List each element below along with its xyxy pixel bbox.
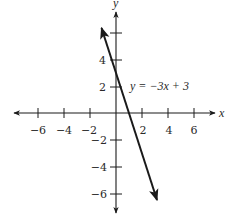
- x-tick-label: −6: [30, 124, 46, 137]
- x-axis-label: x: [218, 106, 225, 120]
- x-tick-label: 6: [191, 124, 198, 137]
- x-tick-label: 2: [140, 124, 147, 137]
- x-tick-label: 4: [166, 124, 173, 137]
- y-tick-label: −6: [91, 188, 107, 201]
- equation-label: y = −3x + 3: [129, 79, 189, 93]
- y-tick-label: 2: [99, 81, 106, 94]
- function-line: [102, 28, 158, 200]
- y-axis-label: y: [112, 0, 119, 10]
- y-tick-label: −4: [91, 161, 107, 174]
- y-tick-label: 4: [99, 54, 106, 67]
- y-tick-label: −2: [91, 134, 107, 147]
- coordinate-plane: −6 −4 −2 2 4 6 4 2 −2 −4 −6 x y y = −3x …: [0, 0, 226, 216]
- x-tick-label: −4: [56, 124, 72, 137]
